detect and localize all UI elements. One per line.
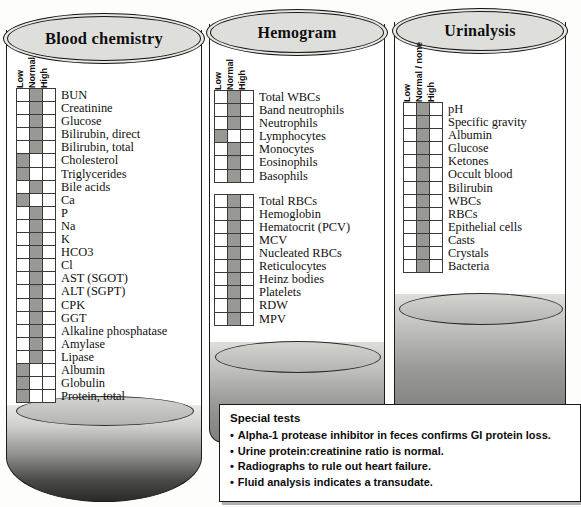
result-cell-low bbox=[17, 390, 30, 403]
result-grid-blood-chemistry: BUNCreatinineGlucoseBilirubin, directBil… bbox=[16, 88, 168, 403]
table-row: pH bbox=[404, 103, 528, 116]
result-cell-low bbox=[17, 141, 30, 154]
result-cell-low bbox=[215, 220, 228, 233]
result-cell-normal bbox=[30, 141, 43, 154]
column-header-low: Low bbox=[15, 70, 25, 88]
result-cell-normal bbox=[228, 117, 241, 130]
result-cell-normal bbox=[417, 247, 430, 260]
test-name-label: Bilirubin bbox=[443, 181, 528, 194]
table-row: Lipase bbox=[17, 350, 168, 363]
result-cell-normal bbox=[417, 155, 430, 168]
table-row: BUN bbox=[17, 89, 168, 102]
result-cell-low bbox=[17, 89, 30, 102]
test-name-label: P bbox=[56, 206, 168, 219]
result-cell-low bbox=[404, 181, 417, 194]
result-cell-high bbox=[43, 324, 56, 337]
test-name-label: CPK bbox=[56, 298, 168, 311]
result-cell-low bbox=[404, 220, 417, 233]
result-cell-low bbox=[17, 206, 30, 219]
result-cell-low bbox=[17, 219, 30, 232]
result-cell-high bbox=[43, 311, 56, 324]
test-name-label: Alkaline phosphatase bbox=[56, 324, 168, 337]
result-cell-low bbox=[215, 169, 228, 182]
result-cell-normal bbox=[228, 286, 241, 299]
column-headers-hemogram: Low Normal High bbox=[214, 50, 351, 90]
result-cell-low bbox=[404, 129, 417, 142]
result-cell-high bbox=[43, 154, 56, 167]
result-cell-normal bbox=[30, 285, 43, 298]
test-name-label: Total RBCs bbox=[254, 194, 351, 207]
result-cell-high bbox=[241, 273, 254, 286]
test-name-label: K bbox=[56, 233, 168, 246]
result-cell-high bbox=[241, 117, 254, 130]
column-header-high: High bbox=[237, 70, 247, 90]
result-cell-high bbox=[241, 233, 254, 246]
test-name-label: Hematocrit (PCV) bbox=[254, 220, 351, 233]
test-name-label: Monocytes bbox=[254, 143, 345, 156]
result-cell-low bbox=[17, 363, 30, 376]
table-row: Ketones bbox=[404, 155, 528, 168]
result-cell-low bbox=[215, 194, 228, 207]
table-row: Occult blood bbox=[404, 168, 528, 181]
result-cell-low bbox=[215, 312, 228, 325]
test-name-label: Nucleated RBCs bbox=[254, 247, 351, 260]
result-cell-normal bbox=[228, 233, 241, 246]
result-cell-normal bbox=[228, 299, 241, 312]
test-name-label: Crystals bbox=[443, 247, 528, 260]
column-header-normal: Normal bbox=[27, 57, 37, 88]
column-header-high: High bbox=[426, 82, 436, 102]
test-name-label: Bilirubin, total bbox=[56, 141, 168, 154]
result-cell-high bbox=[241, 169, 254, 182]
result-cell-high bbox=[241, 286, 254, 299]
result-cell-high bbox=[43, 337, 56, 350]
test-name-label: Na bbox=[56, 219, 168, 232]
result-cell-high bbox=[43, 167, 56, 180]
table-row: Casts bbox=[404, 233, 528, 246]
result-cell-low bbox=[215, 260, 228, 273]
result-cell-low bbox=[404, 233, 417, 246]
result-cell-normal bbox=[30, 219, 43, 232]
result-cell-high bbox=[43, 89, 56, 102]
test-name-label: Total WBCs bbox=[254, 91, 345, 104]
result-cell-normal bbox=[30, 89, 43, 102]
result-cell-high bbox=[241, 220, 254, 233]
result-cell-low bbox=[215, 143, 228, 156]
test-name-label: Reticulocytes bbox=[254, 260, 351, 273]
result-cell-low bbox=[215, 286, 228, 299]
result-cell-high bbox=[430, 129, 443, 142]
result-cell-high bbox=[43, 233, 56, 246]
result-cell-normal bbox=[30, 206, 43, 219]
result-cell-high bbox=[430, 233, 443, 246]
result-cell-normal bbox=[30, 324, 43, 337]
table-row: CPK bbox=[17, 298, 168, 311]
result-cell-high bbox=[241, 156, 254, 169]
result-cell-low bbox=[17, 311, 30, 324]
table-row: Glucose bbox=[404, 142, 528, 155]
result-cell-high bbox=[241, 130, 254, 143]
result-grid-urinalysis: pHSpecific gravityAlbuminGlucoseKetonesO… bbox=[403, 102, 528, 273]
grid-body-blood-chemistry-0: BUNCreatinineGlucoseBilirubin, directBil… bbox=[17, 89, 168, 403]
result-cell-normal bbox=[417, 142, 430, 155]
result-cell-low bbox=[17, 259, 30, 272]
table-row: P bbox=[17, 206, 168, 219]
test-name-label: Casts bbox=[443, 233, 528, 246]
column-header-normal: Normal bbox=[225, 59, 235, 90]
result-cell-high bbox=[430, 116, 443, 129]
result-cell-low bbox=[17, 115, 30, 128]
test-name-label: Basophils bbox=[254, 169, 345, 182]
test-name-label: MCV bbox=[254, 233, 351, 246]
special-tests-list: Alpha-1 protease inhibitor in feces conf… bbox=[230, 428, 570, 490]
result-cell-low bbox=[17, 102, 30, 115]
test-name-label: WBCs bbox=[443, 194, 528, 207]
table-row: Glucose bbox=[17, 115, 168, 128]
result-cell-high bbox=[43, 272, 56, 285]
result-cell-high bbox=[241, 299, 254, 312]
result-cell-normal bbox=[228, 194, 241, 207]
table-row: Lymphocytes bbox=[215, 130, 345, 143]
result-cell-high bbox=[43, 259, 56, 272]
result-cell-normal bbox=[30, 337, 43, 350]
table-row: Cl bbox=[17, 259, 168, 272]
result-cell-normal bbox=[417, 220, 430, 233]
test-name-label: Specific gravity bbox=[443, 116, 528, 129]
result-cell-low bbox=[17, 298, 30, 311]
